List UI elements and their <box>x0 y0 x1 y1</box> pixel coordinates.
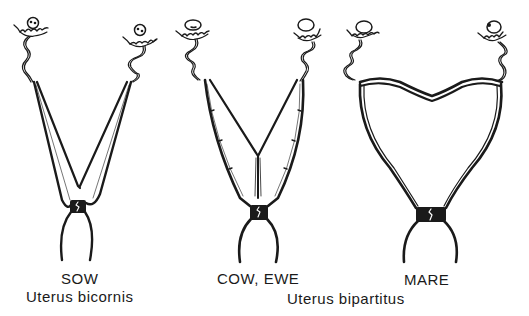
uterus-types-diagram: SOW Uterus bicornis COW, EWE MARE Uterus… <box>0 0 529 316</box>
mare-cervix <box>416 207 446 222</box>
sow-left-ovary <box>14 18 48 37</box>
mare-right-ovary <box>478 21 506 41</box>
uterus-bicornis-label: Uterus bicornis <box>26 288 134 305</box>
sow-cervix <box>70 200 86 213</box>
mare-uterus-drawing <box>344 21 507 262</box>
mare-label: MARE <box>404 271 449 288</box>
cow-ewe-label: COW, EWE <box>217 270 299 287</box>
sow-uterus-drawing <box>14 18 157 261</box>
mare-left-ovary <box>347 21 379 38</box>
cow-left-ovary <box>176 20 209 40</box>
sow-label: SOW <box>61 270 98 287</box>
sow-right-ovary <box>123 25 157 47</box>
cow-cervix <box>250 205 268 220</box>
uterus-bipartitus-label: Uterus bipartitus <box>287 290 405 307</box>
cow-right-ovary <box>294 19 321 41</box>
cow-ewe-uterus-drawing <box>176 19 321 262</box>
